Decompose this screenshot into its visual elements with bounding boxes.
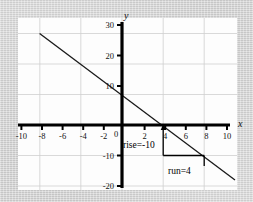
y-tick-label: 10 [100,82,114,91]
y-tick-label: -10 [100,151,114,160]
x-tick-label: -8 [38,132,45,141]
x-tick-label: 6 [184,132,188,141]
x-tick-label: 10 [223,132,232,141]
x-tick-label: -6 [59,132,66,141]
x-tick-label: -2 [100,132,107,141]
rise-run-annotation [161,124,205,166]
y-tick-label: 30 [100,21,114,30]
plotted-line [40,34,235,181]
y-axis [117,22,122,188]
run-annotation-label: run=4 [168,167,191,177]
x-tick-label: -4 [80,132,87,141]
x-tick-label: 8 [204,132,208,141]
x-axis-label: x [238,119,242,129]
x-axis [18,125,230,130]
graph-canvas [0,0,253,202]
figure-root: -10 -8 -6 -4 -2 0 2 4 6 8 10 30 20 10 -1… [0,0,253,202]
y-axis-label: y [124,11,128,21]
rise-annotation-label: rise=-10 [123,141,155,151]
x-tick-label: -10 [16,132,27,141]
y-tick-label: -20 [100,182,114,191]
x-tick-label: 0 [114,130,118,139]
y-tick-label: 20 [100,51,114,60]
x-tick-label: 4 [163,132,167,141]
